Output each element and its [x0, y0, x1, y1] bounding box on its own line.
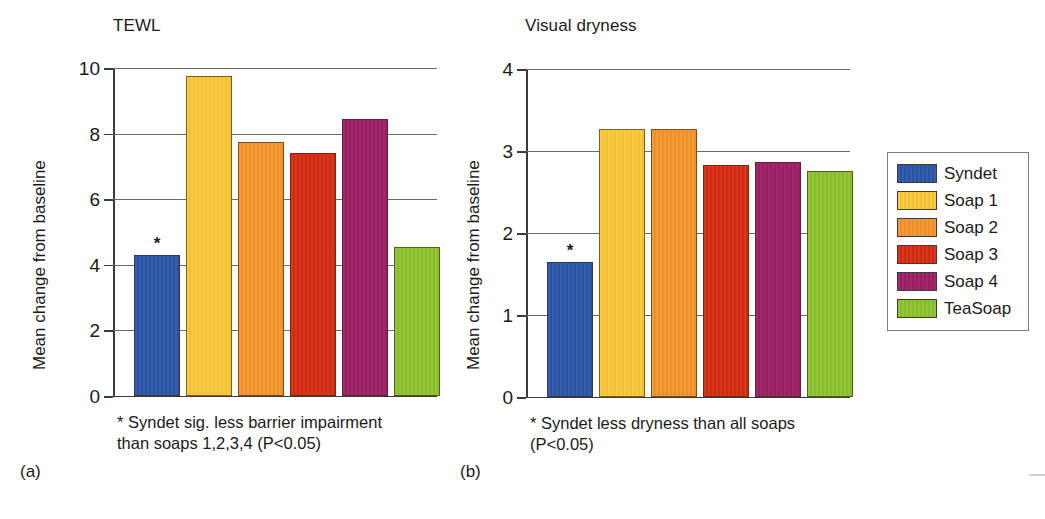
- legend-swatch-icon: [897, 272, 937, 291]
- bar-soap-3: [290, 153, 336, 396]
- chart-a-ticklabel-4: 4: [89, 255, 100, 274]
- chart-b-tick-3: [517, 151, 526, 153]
- chart-a-gridline-8: [113, 134, 437, 135]
- chart-a-tick-0: [104, 396, 113, 398]
- bar-soap-2: [651, 129, 697, 397]
- legend-swatch-icon: [897, 299, 937, 318]
- legend-item-label: Soap 3: [944, 245, 998, 265]
- panel-a: TEWL Mean change from baseline 10 8 6 4 …: [0, 0, 470, 519]
- bar-syndet: [547, 262, 593, 397]
- chart-a-ticklabel-10: 10: [79, 59, 100, 78]
- panel-b-tag: (b): [460, 462, 481, 482]
- chart-b-title: Visual dryness: [525, 16, 637, 36]
- bar-soap-2: [238, 142, 284, 396]
- chart-b-footnote: * Syndet less dryness than all soaps (P<…: [530, 413, 860, 455]
- chart-a-ticklabel-2: 2: [89, 321, 100, 340]
- chart-b-gridline-4: [526, 69, 850, 70]
- legend-item-syndet: Syndet: [897, 160, 1020, 187]
- bar-soap-4: [755, 162, 801, 397]
- chart-b-ticklabel-0: 0: [502, 388, 513, 407]
- chart-b-tick-2: [517, 233, 526, 235]
- significance-marker-syndet: *: [154, 235, 161, 252]
- chart-b-ticklabel-3: 3: [502, 142, 513, 161]
- legend-item-soap-1: Soap 1: [897, 187, 1020, 214]
- chart-legend: SyndetSoap 1Soap 2Soap 3Soap 4TeaSoap: [887, 152, 1029, 331]
- bar-soap-3: [703, 165, 749, 397]
- chart-a-y-axis-label: Mean change from baseline: [30, 160, 50, 370]
- panel-b: Visual dryness Mean change from baseline…: [440, 0, 870, 519]
- chart-a-ticklabel-6: 6: [89, 190, 100, 209]
- chart-a-tick-6: [104, 199, 113, 201]
- bar-syndet: [134, 255, 180, 396]
- chart-a-title: TEWL: [113, 16, 161, 36]
- chart-b-tick-0: [517, 397, 526, 399]
- legend-swatch-icon: [897, 191, 937, 210]
- chart-b-ticklabel-2: 2: [502, 224, 513, 243]
- chart-b-tick-1: [517, 315, 526, 317]
- panel-a-tag: (a): [20, 462, 41, 482]
- chart-b-ticklabel-1: 1: [502, 306, 513, 325]
- legend-swatch-icon: [897, 218, 937, 237]
- chart-a-ticklabel-8: 8: [89, 124, 100, 143]
- legend-item-label: Syndet: [944, 164, 997, 184]
- significance-marker-syndet: *: [567, 242, 574, 259]
- figure-bar-charts: TEWL Mean change from baseline 10 8 6 4 …: [0, 0, 1045, 519]
- chart-b-plot-area: 4 3 2 1 0 *: [526, 69, 850, 397]
- legend-item-label: Soap 4: [944, 272, 998, 292]
- chart-a-tick-10: [104, 68, 113, 70]
- legend-swatch-icon: [897, 164, 937, 183]
- legend-item-label: Soap 2: [944, 218, 998, 238]
- chart-a-tick-2: [104, 330, 113, 332]
- chart-b-ticklabel-4: 4: [502, 60, 513, 79]
- chart-a-footnote: * Syndet sig. less barrier impairment th…: [117, 412, 469, 454]
- chart-b-tick-4: [517, 69, 526, 71]
- bar-soap-1: [599, 129, 645, 397]
- legend-item-soap-4: Soap 4: [897, 268, 1020, 295]
- bar-soap-4: [342, 119, 388, 396]
- legend-item-soap-3: Soap 3: [897, 241, 1020, 268]
- chart-a-y-axis-line: [113, 68, 115, 396]
- legend-item-label: Soap 1: [944, 191, 998, 211]
- legend-swatch-icon: [897, 245, 937, 264]
- chart-a-gridline-10: [113, 68, 437, 69]
- bar-soap-1: [186, 76, 232, 396]
- chart-a-tick-8: [104, 134, 113, 136]
- chart-a-ticklabel-0: 0: [89, 387, 100, 406]
- legend-item-teasoap: TeaSoap: [897, 295, 1020, 322]
- chart-b-y-axis-label: Mean change from baseline: [464, 160, 484, 370]
- bar-teasoap: [394, 247, 440, 396]
- bar-teasoap: [807, 171, 853, 397]
- legend-item-soap-2: Soap 2: [897, 214, 1020, 241]
- page-edge-mark: [1029, 474, 1045, 476]
- chart-a-plot-area: 10 8 6 4 2 0 *: [113, 68, 437, 396]
- legend-item-label: TeaSoap: [944, 299, 1011, 319]
- chart-a-tick-4: [104, 265, 113, 267]
